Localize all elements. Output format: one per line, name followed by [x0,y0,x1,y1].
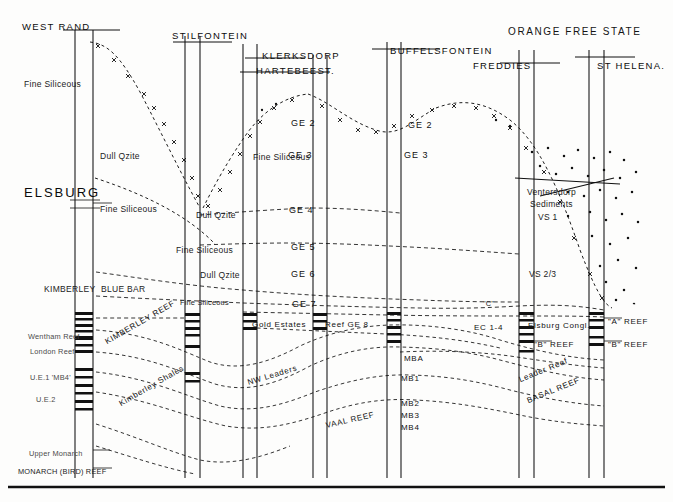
freddies: FREDDIES [473,61,531,71]
lava-contact-crosses [96,44,604,300]
dull-qzite-2: Dull Qzite [196,211,236,220]
horizon-ge8 [243,312,604,317]
upper-monarch: Upper Monarch [29,450,83,457]
ge3-b: GE 3 [404,151,429,160]
dull-qzite-3: Dull Qzite [200,271,240,280]
ge2-b: GE 2 [408,121,433,130]
monarch-bird-reef: MONARCH (BIRD) REEF [18,468,106,475]
mb3: MB3 [401,412,420,420]
fine-siliceous-5: Fine Siliceous [180,299,229,306]
blue-bar: BLUE BAR [101,285,145,294]
ue1-mb4: U.E.1 'MB4' [30,374,71,381]
vs1: VS 1 [538,213,558,222]
ge7: GE 7 [292,300,317,309]
london-reef: London Reef [30,348,75,355]
ec-1-4: EC 1-4 [474,324,503,332]
mba: MBA [404,355,423,363]
mb1: MB1 [401,375,420,383]
b-reef-r: "B" REEF [608,341,648,349]
marker-band-west-rand [75,312,93,411]
marker-band-freddies [519,312,534,353]
ge6: GE 6 [291,270,316,279]
mb2: MB2 [401,400,420,408]
horizon-ge5 [200,243,519,254]
vs23: VS 2/3 [529,270,556,279]
ge2-a: GE 2 [291,119,316,128]
wentham-reef: Wentham Reef [28,333,80,340]
gold-estates-reef: Gold Estates [252,321,306,329]
reef-monarch-bird [96,446,195,474]
st-helena: ST HELENA. [597,61,665,71]
reef-ge8: Reef GE 8 [325,321,369,329]
dull-qzite-1: Dull Qzite [100,152,140,161]
b-reef-mid: "B" REEF [534,341,574,349]
geological-cross-section-figure: WEST RANDSTILFONTEINKLERKSDORPHARTEBEEST… [0,0,673,502]
borehole-columns [75,30,604,478]
vs-c: "C" [483,300,494,307]
sediments: Sediments [530,200,573,209]
ventersdorp: Ventersdorp [527,188,576,197]
orange-free-state: ORANGE FREE STATE [508,27,642,37]
ventersdorp-lava-stipple [95,51,645,305]
mb4: MB4 [401,424,420,432]
kimberley: KIMBERLEY [44,285,95,294]
hartebeest: HARTEBEEST. [256,66,335,76]
reef-monarch [96,424,290,462]
fine-siliceous-2: Fine Siliceous [100,205,157,214]
fine-siliceous-1: Fine Siliceous [24,80,81,89]
marker-leader-lines [70,200,622,468]
ue2: U.E.2 [36,396,55,403]
stilfontein: STILFONTEIN [172,31,248,41]
fine-siliceous-4: Fine Siliceous [176,246,233,255]
ge4: GE 4 [289,206,314,215]
elsburg-group-label: ELSBURG [24,186,100,199]
klerksdorp: KLERKSDORP [262,51,340,61]
reef-mba [400,351,604,368]
ge5: GE 5 [291,243,316,252]
west-rand: WEST RAND [22,22,91,32]
ge3-a: GE 3 [288,151,313,160]
a-reef-r: "A" REEF [608,318,648,326]
buffelsfontein: BUFFELSFONTEIN [390,46,493,56]
marker-band-stilfontein [185,313,200,383]
elsburg-congl: Elsburg Congl. [528,322,590,330]
reef-a [96,325,604,366]
marker-band-buffelsfontein [387,312,401,343]
